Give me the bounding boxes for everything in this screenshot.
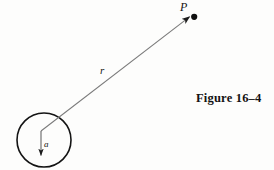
figure-caption: Figure 16–4 (196, 92, 262, 105)
point-p-label: P (180, 1, 187, 13)
figure-diagram-canvas (0, 0, 274, 170)
a-radius-label: a (44, 140, 49, 149)
point-p-dot (191, 14, 197, 20)
figure-16-4: P r a Figure 16–4 (0, 0, 274, 170)
r-vector-line (41, 17, 190, 131)
r-distance-label: r (100, 65, 104, 76)
